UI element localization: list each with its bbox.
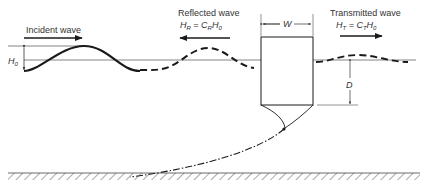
reflected-wave [140,48,254,70]
incident-wave-label: Incident wave [26,25,81,35]
transmitted-wave [316,55,408,62]
mooring-line [130,129,284,177]
floating-breakwater [261,37,313,105]
incident-wave [24,46,140,71]
h0-label: H0 [8,56,19,67]
floating-breakwater-diagram: H0 Incident wave Reflected wave HR = CRH… [0,0,424,188]
draft-label: D [346,80,353,90]
transmitted-formula: HT = CTH0 [336,20,377,31]
width-label: W [283,19,293,29]
reflected-formula: HR = CRH0 [180,20,222,31]
seabed [8,173,420,180]
breakwater-keel [261,105,313,128]
reflected-wave-label: Reflected wave [178,8,240,18]
transmitted-wave-label: Transmitted wave [330,8,401,18]
